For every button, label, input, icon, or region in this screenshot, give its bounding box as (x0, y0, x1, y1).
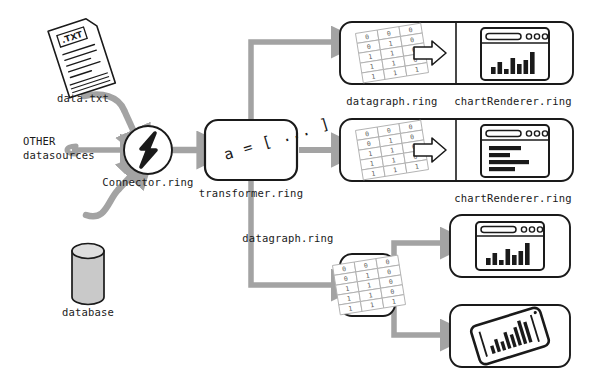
transformer-label: transformer.ring (199, 187, 303, 200)
source-label-other-line1: OTHER (23, 135, 56, 148)
connector-label: Connector.ring (102, 176, 193, 189)
branch-bottom-output-desktop[interactable] (450, 215, 570, 277)
branch-middle-browser-text-lines-icon (481, 125, 549, 177)
out-desktop-browser-bar-chart-icon (476, 222, 544, 270)
branch-middle-renderer-label: chartRenderer.ring (454, 192, 571, 205)
connector-node[interactable] (124, 126, 172, 174)
diagram-canvas: .TXT (0, 0, 595, 379)
branch-bottom-matrix-icon: 000 010 110 110 111 (332, 255, 405, 315)
source-label-other-line2: datasources (23, 149, 95, 162)
branch-top-browser-bar-chart-icon (481, 28, 549, 80)
branch-top-group[interactable]: 000 010 110 110 111 (340, 22, 573, 84)
branch-bottom-group[interactable]: 000 010 110 110 111 (332, 215, 570, 367)
branch-bottom-output-mobile[interactable] (450, 305, 570, 367)
branch-middle-group[interactable]: 000 010 110 110 111 (340, 119, 573, 181)
branch-top-renderer-label: chartRenderer.ring (454, 95, 571, 108)
source-label-database: database (62, 306, 114, 319)
source-label-data-txt: data.txt (57, 92, 109, 105)
branch-top-datagraph-label: datagraph.ring (346, 95, 437, 108)
database-cylinder-icon (72, 244, 104, 305)
branch-bottom-datagraph-label: datagraph.ring (242, 232, 333, 245)
txt-file-icon: .TXT (48, 16, 115, 97)
